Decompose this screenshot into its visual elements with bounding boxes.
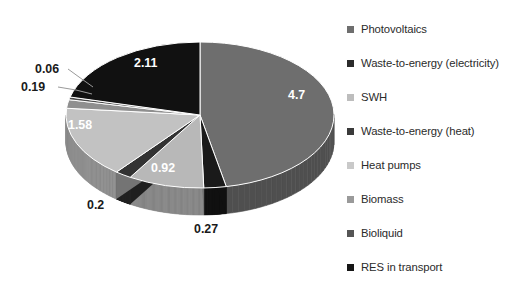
legend-swatch-icon <box>347 230 354 237</box>
pie-slice-side <box>226 186 232 214</box>
legend-item-label: Waste-to-energy (heat) <box>361 114 475 148</box>
data-label-0-06: 0.06 <box>35 62 59 76</box>
pie-slice-side <box>282 171 287 200</box>
legend-swatch-icon <box>347 162 354 169</box>
legend-item-swh[interactable]: SWH <box>347 80 531 114</box>
legend-item-label: Heat pumps <box>361 148 421 182</box>
pie-top-faces <box>66 42 334 188</box>
legend-item-label: Bioliquid <box>361 216 403 250</box>
pie-slice-side <box>325 138 327 168</box>
data-label-4-7: 4.7 <box>288 88 305 102</box>
pie-slice-side <box>267 177 272 206</box>
data-label-1-58: 1.58 <box>68 118 92 132</box>
legend-item-photovoltaics[interactable]: Photovoltaics <box>347 12 531 46</box>
pie-slice-side <box>277 173 282 202</box>
pie-slice-side <box>311 153 314 183</box>
pie-slice-side <box>304 158 308 188</box>
legend-item-label: Waste-to-energy (electricity) <box>361 46 499 80</box>
pie-slice-side <box>320 144 323 174</box>
legend-item-label: SWH <box>361 80 387 114</box>
pie-slice-side <box>308 156 312 186</box>
legend-item-label: Photovoltaics <box>361 12 427 46</box>
data-label-0-19: 0.19 <box>21 80 45 94</box>
legend-item-waste-to-energy-electricity[interactable]: Waste-to-energy (electricity) <box>347 46 531 80</box>
legend-item-waste-to-energy-heat[interactable]: Waste-to-energy (heat) <box>347 114 531 148</box>
legend-item-label: RES in transport <box>361 250 442 284</box>
legend-item-biomass[interactable]: Biomass <box>347 182 531 216</box>
pie-slice-side <box>261 178 266 207</box>
legend-item-label: Biomass <box>361 182 404 216</box>
pie-slice-side <box>287 168 292 197</box>
pie-slice-side <box>300 161 304 191</box>
legend-item-res-in-transport[interactable]: RES in transport <box>347 250 531 284</box>
pie-chart-figure: 2.114.71.580.920.060.190.20.27 Photovolt… <box>0 0 531 295</box>
legend-swatch-icon <box>347 128 354 135</box>
pie-slice-side <box>256 180 262 208</box>
legend-swatch-icon <box>347 196 354 203</box>
legend-swatch-icon <box>347 60 354 67</box>
chart-legend: Photovoltaics Waste-to-energy (electrici… <box>347 12 531 284</box>
legend-item-bioliquid[interactable]: Bioliquid <box>347 216 531 250</box>
pie-slice-side <box>244 183 250 211</box>
data-label-0-92: 0.92 <box>151 161 175 175</box>
data-label-0-2: 0.2 <box>87 198 104 212</box>
pie-slice-side <box>315 150 318 180</box>
pie-slice-side <box>296 164 300 193</box>
legend-swatch-icon <box>347 264 354 271</box>
data-label-2-11: 2.11 <box>134 56 157 70</box>
pie-slice-side <box>291 166 295 195</box>
legend-item-heat-pumps[interactable]: Heat pumps <box>347 148 531 182</box>
data-label-0-27: 0.27 <box>194 222 218 236</box>
legend-swatch-icon <box>347 26 354 33</box>
pie-slice-side <box>250 181 256 209</box>
pie-slice-side <box>238 184 244 212</box>
pie-slice-side <box>272 175 277 204</box>
pie-slice-side <box>318 147 321 177</box>
pie-slice-side <box>323 141 325 171</box>
legend-swatch-icon <box>347 94 354 101</box>
pie-slice-side <box>232 185 238 213</box>
